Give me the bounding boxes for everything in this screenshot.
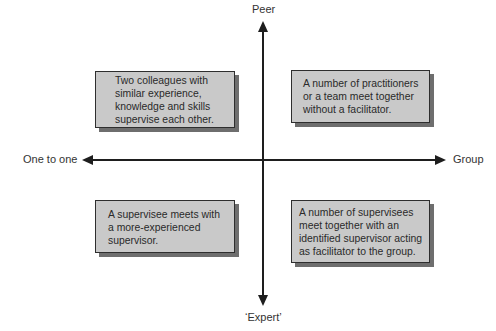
axis-label-group: Group	[453, 153, 484, 165]
quadrant-text: Two colleagues with similar experience, …	[115, 74, 214, 126]
axes	[0, 0, 496, 331]
arrow-right-icon	[435, 155, 446, 165]
axis-label-expert: ‘Expert’	[245, 311, 282, 323]
arrow-up-icon	[258, 21, 268, 32]
quadrant-box-peer-group: A number of practitioners or a team meet…	[291, 70, 430, 123]
axis-label-peer: Peer	[252, 3, 275, 15]
arrow-down-icon	[258, 295, 268, 306]
quadrant-box-peer-one-to-one: Two colleagues with similar experience, …	[95, 71, 235, 128]
quadrant-box-expert-group: A number of supervisees meet together wi…	[291, 200, 430, 263]
quadrant-text: A supervisee meets with a more-experienc…	[108, 208, 220, 247]
quadrant-text: A number of practitioners or a team meet…	[303, 77, 419, 116]
quadrant-text: A number of supervisees meet together wi…	[299, 206, 422, 258]
quadrant-box-expert-one-to-one: A supervisee meets with a more-experienc…	[95, 200, 235, 253]
vertical-axis	[258, 21, 268, 306]
axis-label-one-to-one: One to one	[23, 153, 77, 165]
arrow-left-icon	[82, 155, 93, 165]
